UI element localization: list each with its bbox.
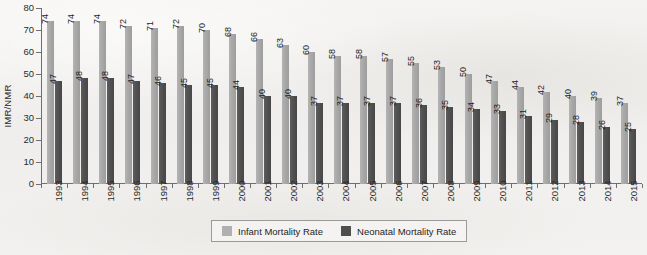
y-axis-tick: 70	[3, 24, 41, 36]
legend-label: Infant Mortality Rate	[238, 226, 323, 237]
bar-value-label: 45	[180, 78, 189, 88]
x-axis-tick-label: 2002	[289, 180, 299, 201]
bar-group-bars: 7146	[146, 8, 172, 184]
bar-group: 7045	[198, 8, 224, 184]
bar-value-label: 34	[467, 102, 476, 112]
bar-group: 7448	[67, 8, 93, 184]
bar-group: 5034	[459, 8, 485, 184]
bar-group: 7448	[93, 8, 119, 184]
bar-neonatal-mortality: 40	[264, 96, 271, 184]
bar-neonatal-mortality: 37	[316, 103, 323, 184]
x-axis-tick-label: 2003	[315, 180, 325, 201]
x-axis-tick-mark	[616, 184, 617, 188]
bar-neonatal-mortality: 47	[133, 81, 140, 184]
bar-infant-mortality: 55	[412, 63, 419, 184]
bar-group: 7247	[119, 8, 145, 184]
bar-neonatal-mortality: 45	[211, 85, 218, 184]
bar-value-label: 35	[441, 100, 450, 110]
x-axis-tick-mark	[172, 184, 173, 188]
bar-value-label: 47	[485, 74, 494, 84]
x-axis-tick: 2015	[616, 184, 642, 234]
x-axis-tick: 2012	[537, 184, 563, 234]
bar-infant-mortality: 39	[595, 98, 602, 184]
bar-neonatal-mortality: 25	[629, 129, 636, 184]
x-axis-tick-mark	[511, 184, 512, 188]
y-axis-tick: 50	[3, 68, 41, 80]
bar-value-label: 37	[616, 96, 625, 106]
bar-value-label: 37	[389, 96, 398, 106]
x-axis-tick-label: 1995	[106, 180, 116, 201]
legend-item-infant-mortality-rate[interactable]: Infant Mortality Rate	[222, 226, 323, 237]
bar-infant-mortality: 40	[569, 96, 576, 184]
x-axis-tick-mark	[459, 184, 460, 188]
bar-group-bars: 5536	[407, 8, 433, 184]
x-axis-tick-label: 2010	[498, 180, 508, 201]
bar-group-bars: 5837	[355, 8, 381, 184]
x-axis-tick-label: 2006	[394, 180, 404, 201]
x-axis-tick-label: 2013	[577, 180, 587, 201]
y-axis-tick: 20	[3, 134, 41, 146]
bar-value-label: 70	[198, 23, 207, 33]
plot-area: 80706050403020100 7447744874487247714672…	[41, 8, 642, 184]
bar-value-label: 66	[250, 32, 259, 42]
bar-group: 7146	[146, 8, 172, 184]
bar-value-label: 53	[433, 60, 442, 70]
bar-group-bars: 3725	[616, 8, 642, 184]
y-axis-tick: 60	[3, 46, 41, 58]
x-axis-tick: 1998	[172, 184, 198, 234]
bar-value-label: 47	[49, 74, 58, 84]
bar-group-bars: 6844	[224, 8, 250, 184]
x-axis-tick: 1993	[41, 184, 67, 234]
x-axis-tick-label: 2008	[446, 180, 456, 201]
bar-group: 4733	[485, 8, 511, 184]
x-axis-tick-label: 2005	[368, 180, 378, 201]
bar-value-label: 44	[232, 80, 241, 90]
bar-group-bars: 4733	[485, 8, 511, 184]
bar-group-bars: 6640	[250, 8, 276, 184]
bar-value-label: 37	[336, 96, 345, 106]
x-axis-tick-label: 2004	[341, 180, 351, 201]
bar-group: 7447	[41, 8, 67, 184]
bar-value-label: 63	[276, 38, 285, 48]
x-axis-tick: 1997	[146, 184, 172, 234]
x-axis-tick-label: 2001	[263, 180, 273, 201]
bar-value-label: 50	[459, 67, 468, 77]
x-axis-tick: 2011	[511, 184, 537, 234]
x-axis-tick-label: 1994	[80, 180, 90, 201]
x-axis-tick: 1994	[67, 184, 93, 234]
bar-group: 6844	[224, 8, 250, 184]
bar-neonatal-mortality: 37	[394, 103, 401, 184]
bar-group-bars: 5737	[381, 8, 407, 184]
bar-group: 4431	[511, 8, 537, 184]
bar-group-bars: 7448	[93, 8, 119, 184]
legend-item-neonatal-mortality-rate[interactable]: Neonatal Mortality Rate	[341, 226, 456, 237]
x-axis-tick-mark	[433, 184, 434, 188]
x-axis-tick-mark	[328, 184, 329, 188]
bar-value-label: 74	[67, 14, 76, 24]
bar-value-label: 60	[302, 45, 311, 55]
x-axis-tick-mark	[407, 184, 408, 188]
bar-group-bars: 5034	[459, 8, 485, 184]
x-axis-tick-label: 1997	[159, 180, 169, 201]
x-axis-tick-mark	[146, 184, 147, 188]
bar-infant-mortality: 72	[125, 26, 132, 184]
bar-group: 5536	[407, 8, 433, 184]
chart-legend: Infant Mortality RateNeonatal Mortality …	[211, 220, 467, 242]
legend-swatch	[341, 226, 351, 236]
bar-neonatal-mortality: 35	[446, 107, 453, 184]
bar-infant-mortality: 50	[465, 74, 472, 184]
bar-value-label: 40	[564, 89, 573, 99]
bar-neonatal-mortality: 45	[185, 85, 192, 184]
bar-value-label: 37	[310, 96, 319, 106]
bar-group-bars: 5837	[328, 8, 354, 184]
x-axis-tick-label: 2000	[237, 180, 247, 201]
bar-group: 5737	[381, 8, 407, 184]
bar-neonatal-mortality: 33	[499, 111, 506, 184]
bar-value-label: 58	[328, 49, 337, 59]
bar-group-bars: 6340	[276, 8, 302, 184]
x-axis-tick-mark	[564, 184, 565, 188]
bar-group: 4229	[537, 8, 563, 184]
x-axis-tick-mark	[198, 184, 199, 188]
bar-neonatal-mortality: 40	[290, 96, 297, 184]
bar-neonatal-mortality: 26	[603, 127, 610, 184]
